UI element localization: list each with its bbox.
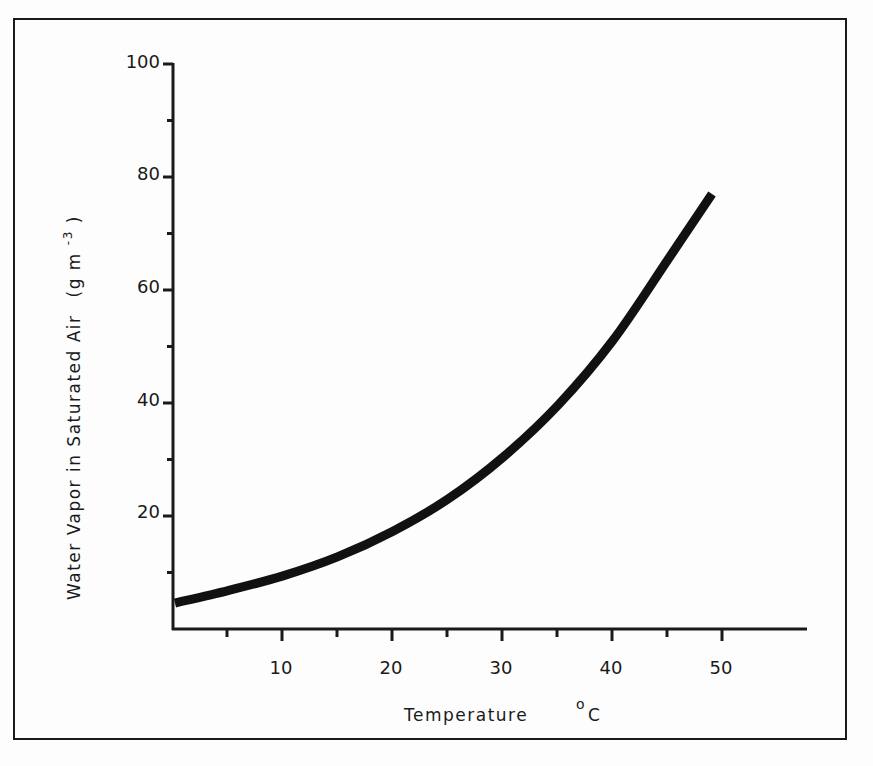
x-tick-label: 30 xyxy=(490,657,513,678)
axes xyxy=(163,63,807,641)
x-tick-label: 50 xyxy=(710,657,733,678)
y-tick-label: 60 xyxy=(137,276,160,297)
y-tick-label: 40 xyxy=(137,389,160,410)
x-tick-label: 40 xyxy=(600,657,623,678)
y-axis-title-main: Water Vapor in Saturated Air (g m -3 ) xyxy=(56,215,84,600)
chart: 20 40 60 80 100 10 20 30 40 50 Temperatu… xyxy=(0,0,873,766)
x-axis-degree: o xyxy=(576,696,586,712)
x-tick-label: 10 xyxy=(270,657,293,678)
x-axis-title: Temperature xyxy=(403,705,528,725)
x-tick-label: 20 xyxy=(380,657,403,678)
y-axis-title: Water Vapor in Saturated Air (g m -3 ) xyxy=(56,215,84,600)
y-tick-label: 100 xyxy=(126,51,160,72)
y-tick-label: 80 xyxy=(137,163,160,184)
data-curve xyxy=(175,194,712,603)
y-tick-label: 20 xyxy=(137,501,160,522)
x-axis-unit: C xyxy=(588,705,601,725)
